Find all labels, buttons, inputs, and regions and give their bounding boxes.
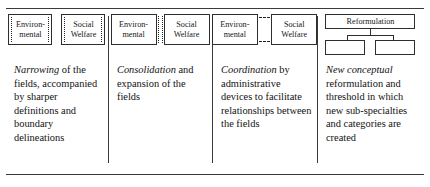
field-box-line2: mental xyxy=(114,30,154,40)
panel-row: Environ- mental Social Welfare Narrowing… xyxy=(6,8,424,175)
field-box-social-welfare: Social Welfare xyxy=(164,14,210,45)
field-box-line1: Environ- xyxy=(11,20,49,30)
box-row: Environ- mental Social Welfare xyxy=(108,14,212,45)
tree-child-node-right xyxy=(375,40,415,55)
diagram-consolidation: Environ- mental Social Welfare xyxy=(108,8,212,54)
tree-child-node-left xyxy=(325,40,365,55)
field-box-line1: Environ- xyxy=(215,20,255,30)
panel-narrowing: Environ- mental Social Welfare Narrowing… xyxy=(6,8,108,175)
panel-coordination: Environ- mental Social Welfare Coordinat… xyxy=(212,8,317,175)
box-row: Environ- mental Social Welfare xyxy=(6,14,108,45)
figure-container: Environ- mental Social Welfare Narrowing… xyxy=(0,0,430,187)
field-box-line1: Social xyxy=(167,20,207,30)
field-box-environmental: Environ- mental xyxy=(212,14,258,45)
field-box-line2: Welfare xyxy=(274,30,314,40)
field-box-line1: Social xyxy=(274,20,314,30)
field-box-social-welfare: Social Welfare xyxy=(61,14,105,45)
field-box-environmental: Environ- mental xyxy=(111,14,157,45)
connector-dash-top xyxy=(259,17,271,18)
field-box-line1: Social xyxy=(64,20,102,30)
box-row: Environ- mental Social Welfare xyxy=(212,14,317,45)
caption-lead: Narrowing xyxy=(14,64,59,75)
diagram-narrowing: Environ- mental Social Welfare xyxy=(6,8,108,54)
field-box-social-welfare: Social Welfare xyxy=(271,14,317,45)
panel-caption-consolidation: Consolidation and expansion of the field… xyxy=(108,54,212,104)
caption-rest: of the fields, accompanied by sharper de… xyxy=(14,64,97,143)
box-seam xyxy=(157,14,164,45)
dashed-connector xyxy=(258,14,272,45)
panel-reformulation: Reformulation New conceptual reformulati… xyxy=(317,8,424,175)
caption-lead: Coordination xyxy=(221,64,277,75)
tree-crossbar xyxy=(347,35,393,36)
diagram-coordination: Environ- mental Social Welfare xyxy=(212,8,317,54)
caption-rest: reformulation and threshold in which new… xyxy=(326,78,407,143)
field-box-line2: mental xyxy=(11,30,49,40)
field-box-environmental: Environ- mental xyxy=(8,14,52,45)
field-box-line1: Environ- xyxy=(114,20,154,30)
caption-lead: New conceptual xyxy=(326,64,393,75)
panel-caption-coordination: Coordination by administrative devices t… xyxy=(212,54,317,131)
panel-caption-narrowing: Narrowing of the fields, accompanied by … xyxy=(6,54,108,144)
tree-leaf-row xyxy=(325,40,415,55)
panel-caption-reformulation: New conceptual reformulation and thresho… xyxy=(317,54,424,144)
tree-parent-node: Reformulation xyxy=(325,14,415,29)
field-box-line2: mental xyxy=(215,30,255,40)
panel-consolidation: Environ- mental Social Welfare Consolida… xyxy=(108,8,212,175)
field-box-line2: Welfare xyxy=(64,30,102,40)
caption-lead: Consolidation xyxy=(117,64,176,75)
field-box-line2: Welfare xyxy=(167,30,207,40)
connector-dash-bottom xyxy=(259,41,271,42)
diagram-reformulation: Reformulation xyxy=(317,8,424,54)
reformulation-tree: Reformulation xyxy=(325,14,415,56)
